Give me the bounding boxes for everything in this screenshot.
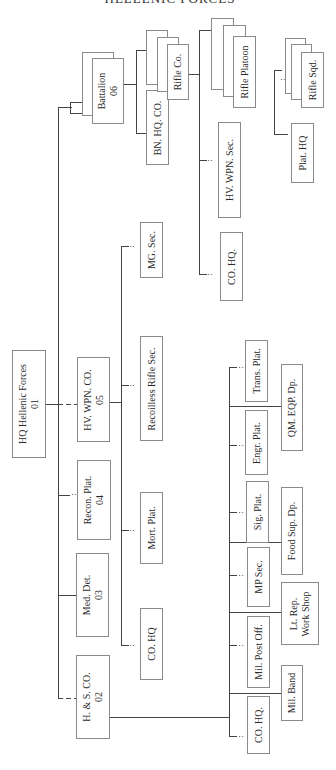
- unit-name: Work Shop: [300, 591, 311, 636]
- unit-code: 01: [29, 399, 40, 409]
- unit-name: CO. HQ.: [253, 707, 265, 743]
- connector: [70, 113, 82, 114]
- unit-name: Recon. Plat.: [82, 476, 93, 525]
- unit-med-det[interactable]: Med. Det.03: [76, 553, 109, 637]
- dots-marker: :: [205, 159, 214, 162]
- unit-trans-plat[interactable]: Trans. Plat.: [245, 340, 268, 402]
- unit-sig-plat[interactable]: Sig. Plat.: [246, 481, 269, 543]
- unit-food-sup-dp[interactable]: Food Sup. Dp.: [281, 487, 303, 575]
- connector: [70, 102, 71, 114]
- connector: [110, 402, 121, 403]
- unit-name: Med. Det.: [81, 575, 92, 615]
- battalion-spine: [136, 50, 137, 134]
- connector: [124, 84, 136, 85]
- connector: [229, 406, 281, 407]
- unit-name: Engr. Plat.: [251, 422, 263, 464]
- unit-mil-post-off[interactable]: Mil. Post Off.: [247, 616, 270, 688]
- unit-name: Mort. Plat.: [146, 506, 158, 549]
- connector: [199, 30, 211, 31]
- connector: [136, 133, 146, 134]
- chart-title: HELLENIC FORCES: [95, 0, 245, 7]
- unit-name: Plat. HQ: [297, 136, 309, 171]
- dashed-connector: [58, 404, 77, 405]
- unit-name: HV. WPN. CO.: [82, 369, 93, 431]
- dots-marker: :: [236, 735, 245, 738]
- unit-code: 03: [93, 590, 104, 600]
- dashed-connector: [58, 698, 76, 699]
- unit-name: CO. HQ.: [226, 249, 238, 285]
- unit-bn-hq-co[interactable]: BN. HQ. CO.: [146, 90, 169, 165]
- unit-name: H. & S. CO.: [81, 672, 92, 721]
- unit-rifle-co[interactable]: Rifle Co.: [167, 44, 189, 100]
- unit-name: HQ Hellenic Forces: [17, 364, 28, 444]
- unit-name: Lt. Rep.: [288, 597, 299, 630]
- connector: [46, 404, 58, 405]
- unit-hv-wpn-sec[interactable]: HV. WPN. Sec.: [218, 122, 241, 218]
- unit-name: BN. HQ. CO.: [152, 100, 164, 155]
- hs-co-spine: [229, 367, 230, 737]
- unit-name: Battalion: [96, 73, 107, 110]
- unit-plat-hq[interactable]: Plat. HQ: [291, 123, 314, 183]
- connector: [70, 102, 82, 103]
- main-spine: [58, 107, 59, 699]
- dots-marker: :: [127, 245, 136, 248]
- unit-rifle-sqd[interactable]: Rifle Sqd.: [301, 52, 324, 108]
- unit-name: Trans. Plat.: [251, 348, 263, 393]
- unit-battalion[interactable]: Battalion06: [92, 58, 124, 124]
- unit-name: CO. HQ: [146, 627, 158, 660]
- unit-code: 05: [94, 395, 105, 405]
- unit-name: Mil. Band: [286, 673, 298, 714]
- dots-marker: :: [127, 384, 136, 387]
- unit-name: Rifle Co.: [172, 54, 184, 91]
- unit-lt-rep-work-shop[interactable]: Lt. Rep.Work Shop: [281, 582, 319, 645]
- dots-marker: :: [236, 574, 245, 577]
- unit-recon-plat[interactable]: Recon. Plat.04: [77, 460, 111, 540]
- unit-code: 06: [108, 86, 119, 96]
- dots-marker: :: [236, 644, 245, 647]
- unit-co-hq[interactable]: CO. HQ: [140, 608, 163, 680]
- unit-mg-sec[interactable]: MG. Sec.: [140, 222, 163, 278]
- dots-marker: :: [236, 511, 245, 514]
- unit-name: MP Sec.: [253, 560, 265, 594]
- unit-mort-plat[interactable]: Mort. Plat.: [140, 492, 163, 564]
- connector: [189, 74, 199, 75]
- connector: [58, 595, 76, 596]
- connector: [274, 134, 288, 135]
- connector: [110, 717, 230, 718]
- unit-recoilless-rifle-sec[interactable]: Recoilless Rifle Sec.: [140, 336, 163, 441]
- unit-engr-plat[interactable]: Engr. Plat.: [245, 410, 268, 475]
- unit-name: MG. Sec.: [146, 231, 158, 269]
- unit-rifle-co-hq[interactable]: CO. HQ.: [220, 232, 243, 301]
- rifle-co-spine: [199, 30, 200, 274]
- unit-name: Recoilless Rifle Sec.: [146, 347, 158, 430]
- connector: [229, 693, 281, 694]
- dots-marker: :: [205, 273, 214, 276]
- unit-code: 04: [94, 495, 105, 505]
- unit-hq-hellenic-forces[interactable]: HQ Hellenic Forces01: [12, 350, 46, 458]
- dots-marker: :: [127, 529, 136, 532]
- unit-mil-band[interactable]: Mil. Band: [281, 665, 303, 721]
- unit-hs-co-hq[interactable]: CO. HQ.: [247, 696, 270, 754]
- dots-marker: :: [236, 444, 245, 447]
- unit-name: Food Sup. Dp.: [286, 502, 298, 560]
- unit-hs-co[interactable]: H. & S. CO.02: [76, 655, 110, 739]
- unit-hv-wpn-co[interactable]: HV. WPN. CO.05: [77, 357, 110, 442]
- dots-marker: :: [127, 644, 136, 647]
- unit-name: HV. WPN. Sec.: [224, 139, 236, 201]
- unit-rifle-platoon[interactable]: Rifle Platoon: [233, 36, 256, 108]
- connector: [229, 612, 281, 613]
- dots-marker: :: [236, 366, 245, 369]
- unit-code: 02: [93, 692, 104, 702]
- unit-name: Mil. Post Off.: [253, 624, 265, 679]
- unit-mp-sec[interactable]: MP Sec.: [247, 547, 270, 607]
- unit-name: Rifle Platoon: [239, 45, 251, 98]
- unit-name: QM. EQP. Dp.: [286, 378, 298, 437]
- connector: [274, 70, 282, 71]
- rifle-platoon-spine: [274, 70, 275, 134]
- unit-qm-eqp-dp[interactable]: QM. EQP. Dp.: [281, 364, 303, 451]
- unit-name: Rifle Sqd.: [307, 60, 319, 101]
- connector: [136, 50, 146, 51]
- hv-wpn-spine: [121, 246, 122, 646]
- unit-name: Sig. Plat.: [252, 494, 264, 530]
